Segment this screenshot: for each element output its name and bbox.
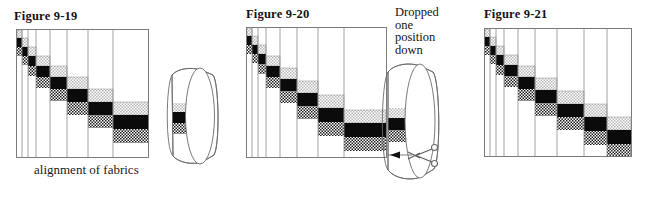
figure-panel-9-20: Figure 9-20 Dropped one position down: [230, 0, 470, 200]
figure-artwork-9-21: [470, 0, 660, 200]
figure-caption-9-19: alignment of fabrics: [34, 162, 139, 178]
figure-artwork-9-20: [230, 0, 470, 200]
figure-panel-9-19: Figure 9-19: [0, 0, 230, 200]
figure-panel-9-21: Figure 9-21: [470, 0, 660, 200]
fabric-tube-ring: [167, 68, 218, 164]
